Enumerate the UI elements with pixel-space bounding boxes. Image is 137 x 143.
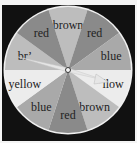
sector-label: red [87, 26, 102, 40]
spinner-wheel[interactable]: brownredblue’llowbrownredblueyellowbr’re… [0, 0, 137, 143]
sector-label: brown [79, 100, 110, 114]
sector-label: yellow [9, 77, 42, 91]
sector-label: br’ [18, 49, 32, 63]
sector-label: red [60, 108, 75, 122]
spinner-hub [66, 68, 71, 73]
sector-label: brown [53, 18, 84, 32]
sector-label: red [34, 26, 49, 40]
sector-label: blue [31, 100, 52, 114]
sector-label: blue [101, 49, 122, 63]
